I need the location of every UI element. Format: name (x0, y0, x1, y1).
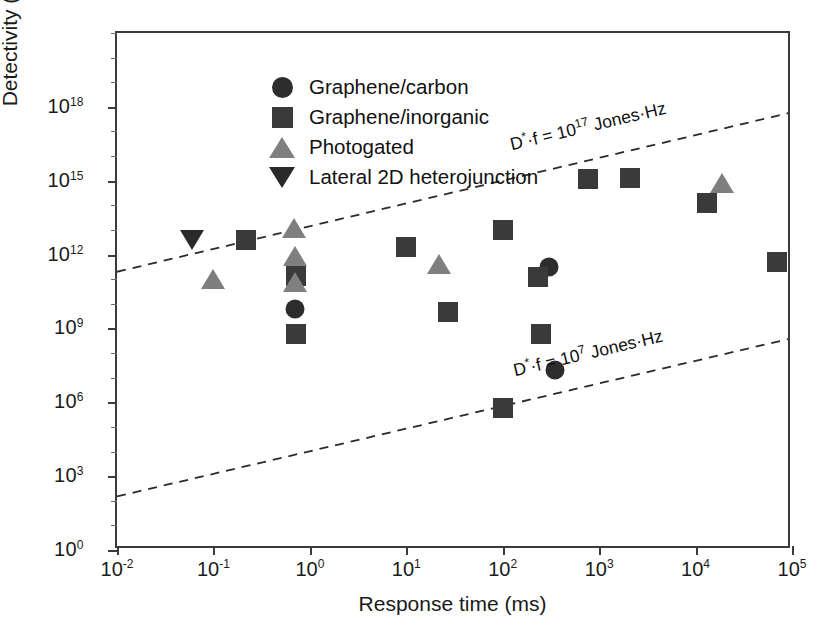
y-tick-label-12: 1012 (47, 242, 83, 266)
x-tick-5 (792, 546, 794, 555)
x-tick-2 (503, 546, 505, 555)
legend-glyph-circle (265, 77, 299, 98)
data-point-square (438, 302, 458, 322)
y-tick-3 (108, 476, 117, 478)
legend-glyph-triangle-up (265, 137, 299, 158)
data-point-triangle-up (283, 272, 307, 292)
data-point-triangle-up (427, 254, 451, 274)
data-point-square (528, 267, 548, 287)
x-tick-label--1: 10-1 (197, 557, 230, 581)
y-tick-label-18: 1018 (47, 95, 83, 119)
x-tick-label-4: 104 (681, 557, 710, 581)
legend-item-0[interactable]: Graphene/carbon (265, 73, 538, 101)
legend-item-3[interactable]: Lateral 2D heterojunction (265, 163, 538, 191)
data-point-square (531, 324, 551, 344)
data-point-triangle-up (201, 269, 225, 289)
y-tick-9 (108, 328, 117, 330)
circle-marker (272, 77, 293, 98)
data-point-square (493, 398, 513, 418)
legend-glyph-square (265, 107, 299, 128)
x-tick-label-5: 105 (778, 557, 807, 581)
data-point-square (236, 230, 256, 250)
x-tick-0 (310, 546, 312, 555)
y-tick-label-0: 100 (54, 538, 83, 562)
data-point-circle (285, 300, 304, 319)
square-marker (272, 107, 293, 128)
x-axis-title: Response time (ms) (115, 592, 790, 616)
data-point-square (286, 324, 306, 344)
data-point-triangle-up (283, 246, 307, 266)
data-point-square (493, 220, 513, 240)
lower-limit-line (117, 338, 788, 496)
data-point-square (697, 193, 717, 213)
y-tick-0 (108, 550, 117, 552)
legend-label-2: Photogated (309, 135, 414, 159)
x-tick-label-1: 101 (392, 557, 421, 581)
x-tick--1 (213, 546, 215, 555)
legend-label-0: Graphene/carbon (309, 75, 469, 99)
legend-label-3: Lateral 2D heterojunction (309, 165, 538, 189)
x-tick-1 (406, 546, 408, 555)
y-tick-label-3: 103 (54, 464, 83, 488)
y-tick-6 (108, 402, 117, 404)
x-tick-label-2: 102 (488, 557, 517, 581)
chart-root: Detectivity (Jones) Response time (ms) 1… (0, 0, 834, 639)
x-tick-label-3: 103 (585, 557, 614, 581)
data-point-square (620, 168, 640, 188)
y-tick-18 (108, 107, 117, 109)
legend: Graphene/carbonGraphene/inorganicPhotoga… (265, 73, 538, 193)
data-point-square (396, 237, 416, 257)
x-tick-label--2: 10-2 (101, 557, 134, 581)
y-tick-label-6: 106 (54, 390, 83, 414)
y-axis-title: Detectivity (Jones) (0, 0, 22, 170)
y-tick-15 (108, 181, 117, 183)
x-tick-3 (599, 546, 601, 555)
y-tick-label-15: 1015 (47, 168, 83, 192)
data-point-triangle-down (180, 230, 204, 250)
data-point-square (767, 252, 787, 272)
triangle-up-marker (269, 137, 295, 158)
y-tick-label-9: 109 (54, 316, 83, 340)
data-point-triangle-up (282, 218, 306, 238)
plot-frame: 100103106109101210151018 10-210-11001011… (115, 31, 790, 548)
x-tick--2 (117, 546, 119, 555)
x-tick-label-0: 100 (295, 557, 324, 581)
data-point-square (578, 169, 598, 189)
legend-item-1[interactable]: Graphene/inorganic (265, 103, 538, 131)
triangle-down-marker (269, 167, 295, 188)
legend-label-1: Graphene/inorganic (309, 105, 489, 129)
legend-item-2[interactable]: Photogated (265, 133, 538, 161)
data-point-triangle-up (710, 173, 734, 193)
x-tick-4 (696, 546, 698, 555)
y-tick-12 (108, 255, 117, 257)
legend-glyph-triangle-down (265, 167, 299, 188)
